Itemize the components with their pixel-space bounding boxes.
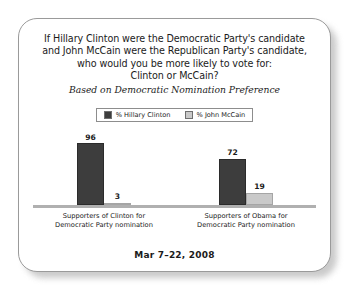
survey-date-range: Mar 7–22, 2008 — [19, 250, 330, 260]
bar-slot-clinton-supporters-hillary-clinton[interactable]: 96 — [77, 119, 104, 205]
category-label-line-2: Democratic Party nomination — [179, 221, 313, 230]
legend-label-john-mccain: % John McCain — [197, 111, 246, 119]
chart-title-block: If Hillary Clinton were the Democratic P… — [35, 33, 314, 97]
bar-group-obama-supporters: 72 19 — [179, 119, 313, 205]
legend-label-hillary-clinton: % Hillary Clinton — [116, 111, 171, 119]
category-label-line-2: Democratic Party nomination — [37, 221, 171, 230]
legend-swatch-icon-hillary-clinton — [104, 111, 112, 119]
bar-slot-obama-supporters-john-mccain[interactable]: 19 — [246, 119, 273, 205]
title-line-1: If Hillary Clinton were the Democratic P… — [35, 33, 314, 45]
title-line-2: and John McCain were the Republican Part… — [35, 45, 314, 57]
title-line-3: who would you be more likely to vote for… — [35, 58, 314, 70]
bar-slot-clinton-supporters-john-mccain[interactable]: 3 — [104, 119, 131, 205]
category-label-line-1: Supporters of Clinton for — [37, 212, 171, 221]
category-label-obama-supporters: Supporters of Obama for Democratic Party… — [179, 212, 313, 230]
bar-hillary-clinton[interactable] — [77, 143, 104, 205]
legend-item-hillary-clinton[interactable]: % Hillary Clinton — [104, 111, 171, 119]
legend-item-john-mccain[interactable]: % John McCain — [185, 111, 246, 119]
bar-slot-obama-supporters-hillary-clinton[interactable]: 72 — [219, 119, 246, 205]
bar-chart-plot: 96 3 72 19 — [29, 122, 320, 208]
category-label-line-1: Supporters of Obama for — [179, 212, 313, 221]
category-label-clinton-supporters: Supporters of Clinton for Democratic Par… — [37, 212, 171, 230]
bar-hillary-clinton[interactable] — [219, 159, 246, 206]
bar-value-label: 19 — [254, 183, 265, 191]
chart-subtitle: Based on Democratic Nomination Preferenc… — [35, 83, 314, 97]
page-root: If Hillary Clinton were the Democratic P… — [0, 0, 349, 293]
bar-value-label: 3 — [115, 193, 120, 201]
bar-group-bars: 96 3 — [37, 119, 171, 205]
bar-group-clinton-supporters: 96 3 — [37, 119, 171, 205]
legend-swatch-icon-john-mccain — [185, 111, 193, 119]
category-axis-labels: Supporters of Clinton for Democratic Par… — [29, 212, 320, 236]
x-axis-line — [33, 205, 316, 208]
bar-group-bars: 72 19 — [179, 119, 313, 205]
poll-result-card: If Hillary Clinton were the Democratic P… — [18, 18, 331, 272]
bar-value-label: 72 — [227, 149, 238, 157]
bar-john-mccain[interactable] — [246, 193, 273, 206]
bar-value-label: 96 — [85, 134, 96, 142]
title-line-4: Clinton or McCain? — [35, 70, 314, 82]
